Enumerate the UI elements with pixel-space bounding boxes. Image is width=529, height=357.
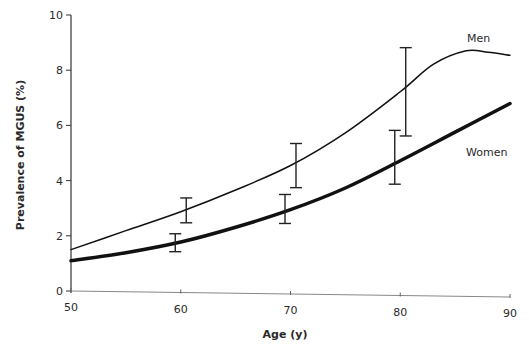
y-tick-label: 6: [56, 119, 63, 132]
y-tick-label: 10: [49, 9, 63, 22]
men-series: [71, 48, 510, 250]
y-tick-label: 0: [56, 285, 63, 298]
x-axis-title: Age (y): [263, 328, 308, 341]
error-bar: [400, 48, 412, 136]
men-series-label: Men: [467, 32, 490, 45]
x-tick-label: 90: [503, 307, 517, 320]
y-tick-label: 4: [56, 175, 63, 188]
women-curve: [71, 104, 510, 261]
y-tick-label: 2: [56, 230, 63, 243]
y-axis: 0246810: [49, 9, 71, 298]
mgus-prevalence-chart: 0246810 5060708090 Age (y) Prevalence of…: [0, 0, 529, 357]
error-bar: [180, 198, 192, 223]
x-tick-label: 60: [174, 303, 188, 316]
error-bar: [389, 130, 401, 184]
y-axis-title: Prevalence of MGUS (%): [14, 80, 27, 230]
y-tick-label: 8: [56, 64, 63, 77]
men-curve: [71, 50, 510, 249]
x-tick-label: 50: [64, 301, 78, 314]
series-layer: [71, 48, 510, 261]
women-series: [71, 104, 510, 261]
women-series-label: Women: [466, 146, 507, 159]
x-axis: 5060708090: [64, 288, 517, 320]
x-tick-label: 80: [393, 306, 407, 319]
x-tick-label: 70: [284, 304, 298, 317]
